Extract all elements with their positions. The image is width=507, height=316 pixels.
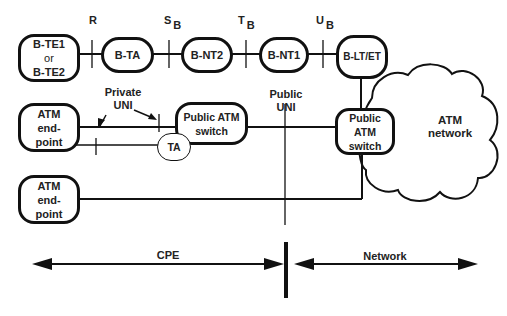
ref-point-ub: UB [316,14,334,27]
b-nt2-node: B-NT2 [181,37,233,73]
endpoint1-line3: point [36,135,63,149]
b-nt1-node: B-NT1 [259,37,309,73]
public-uni-line1: Public [264,88,308,101]
private-switch-line2: switch [195,124,228,138]
ref-point-tb: TB [238,14,255,27]
or-label: or [44,51,54,65]
private-uni-line1: Private [100,86,146,99]
private-switch-line1: Public ATM [184,110,240,124]
b-te-node: B-TE1 or B-TE2 [18,34,80,82]
b-ta-label: B-TA [115,48,140,62]
ref-s-sub: B [173,19,181,31]
ref-u-sub: B [326,19,334,31]
b-nt1-label: B-NT1 [268,48,300,62]
public-switch-line1: Public ATM [338,111,392,139]
endpoint2-line1: ATM [37,179,60,193]
public-uni-line2: UNI [264,101,308,114]
public-switch-line2: switch [349,139,382,153]
public-uni-label: Public UNI [264,88,308,114]
ta-label: TA [167,140,180,154]
b-lt-et-node: B-LT/ET [336,35,388,79]
private-uni-line2: UNI [100,99,146,112]
ref-s-main: S [164,14,171,26]
ref-point-sb: SB [164,14,181,27]
b-lt-et-label: B-LT/ET [343,50,381,64]
private-uni-label: Private UNI [100,86,146,112]
b-te2-label: B-TE2 [33,65,65,79]
b-nt2-label: B-NT2 [191,48,223,62]
ref-r-main: R [89,14,97,26]
network-label: Network [360,250,410,263]
endpoint2-line2: end- [37,193,60,207]
b-ta-node: B-TA [101,37,154,73]
atm-reference-diagram: B-TE1 or B-TE2 B-TA B-NT2 B-NT1 B-LT/ET … [0,0,507,316]
cpe-label: CPE [148,249,188,262]
ta-node: TA [157,133,191,161]
atm-network-label: ATM network [420,114,480,140]
public-atm-switch: Public ATM switch [335,108,395,155]
endpoint1-line2: end- [37,121,60,135]
ref-t-sub: B [247,19,255,31]
atm-endpoint-1: ATM end- point [18,103,80,152]
endpoint2-line3: point [36,207,63,221]
ref-u-main: U [316,14,324,26]
atm-endpoint-2: ATM end- point [18,175,80,224]
ref-t-main: T [238,14,245,26]
endpoint1-line1: ATM [37,107,60,121]
ref-point-r: R [89,14,97,27]
cloud-line1: ATM [420,114,480,127]
b-te1-label: B-TE1 [33,37,65,51]
cloud-line2: network [420,127,480,140]
